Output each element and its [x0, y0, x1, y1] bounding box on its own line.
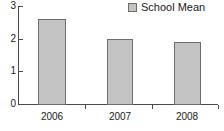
y-axis-label-0: 0	[2, 99, 16, 109]
bar-2006	[38, 19, 66, 105]
legend-swatch-school-mean	[128, 3, 137, 12]
x-axis-label-2006: 2006	[30, 111, 74, 122]
y-axis-tick-3	[19, 6, 23, 7]
bar-chart: 3 2 1 0 2006 2007 2008 School Mean	[0, 0, 224, 131]
y-axis-label-2: 2	[2, 34, 16, 44]
legend: School Mean	[128, 2, 205, 13]
x-axis-label-2008: 2008	[165, 111, 209, 122]
legend-label-school-mean: School Mean	[141, 2, 205, 13]
bar-2008	[174, 42, 201, 105]
y-axis-label-3: 3	[2, 1, 16, 11]
y-axis-line	[18, 6, 19, 105]
x-axis-tick-separator-3	[218, 105, 219, 109]
y-axis-label-1: 1	[2, 66, 16, 76]
plot-area: 3 2 1 0 2006 2007 2008 School Mean	[0, 0, 224, 131]
x-axis-tick-separator-2	[152, 105, 153, 109]
x-axis-tick-separator-1	[85, 105, 86, 109]
x-axis-label-2007: 2007	[98, 111, 142, 122]
bar-2007	[107, 39, 133, 105]
y-axis-tick-2	[19, 39, 23, 40]
y-axis-tick-1	[19, 71, 23, 72]
